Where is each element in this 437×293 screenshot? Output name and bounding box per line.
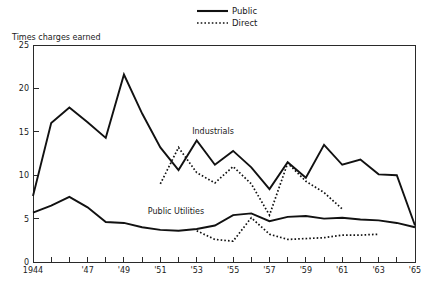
series-line-public-utilities-public (33, 197, 415, 231)
y-tick-label-5: 5 (24, 215, 29, 224)
y-tick-15: 15 (19, 128, 39, 137)
y-tick-10: 10 (19, 171, 39, 180)
y-tick-25: 25 (19, 41, 39, 50)
x-tick-label-1963: '63 (372, 266, 384, 275)
series-layer (33, 75, 415, 242)
legend-label-direct: Direct (232, 18, 258, 28)
plot-border (33, 45, 415, 262)
y-tick-label-25: 25 (19, 41, 29, 50)
chart-legend: Public Direct (197, 6, 258, 28)
y-tick-label-10: 10 (19, 171, 29, 180)
x-tick-label-1965: '65 (409, 266, 421, 275)
x-tick-label-1957: '57 (263, 266, 275, 275)
x-tick-label-1944: 1944 (23, 266, 43, 275)
x-tick-label-1961: '61 (336, 266, 348, 275)
x-tick-label-1949: '49 (118, 266, 130, 275)
y-tick-label-20: 20 (19, 84, 29, 93)
series-line-industrials-direct (160, 147, 342, 215)
annotation-public-utilities: Public Utilities (148, 207, 204, 216)
x-tick-label-1951: '51 (154, 266, 166, 275)
x-tick-label-1947: '47 (81, 266, 93, 275)
plot-frame (33, 45, 415, 262)
chart-container: Public Direct Times charges earned 0 5 1… (0, 0, 437, 293)
chart-annotations: Industrials Public Utilities (148, 127, 234, 216)
y-tick-5: 5 (24, 215, 39, 224)
annotation-industrials: Industrials (192, 127, 234, 136)
x-tick-label-1955: '55 (227, 266, 239, 275)
x-axis: 1944'47'49'51'53'55'57'59'61'63'65 (23, 257, 421, 275)
series-line-industrials-public (33, 75, 415, 226)
x-tick-label-1953: '53 (191, 266, 203, 275)
line-chart: Public Direct Times charges earned 0 5 1… (0, 0, 437, 293)
y-tick-20: 20 (19, 84, 39, 93)
x-tick-label-1959: '59 (300, 266, 312, 275)
y-axis: 0 5 10 15 20 25 (19, 41, 39, 267)
legend-label-public: Public (232, 6, 257, 16)
y-tick-label-15: 15 (19, 128, 29, 137)
